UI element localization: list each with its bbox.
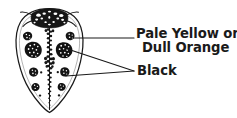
spot-lower-left xyxy=(29,68,38,77)
beetle-diagram-svg xyxy=(0,0,237,118)
label-pale-yellow-or: Pale Yellow or xyxy=(136,27,237,41)
spot-upper-right xyxy=(66,32,75,41)
label-dull-orange: Dull Orange xyxy=(142,41,229,55)
spot-apex-right xyxy=(58,94,61,96)
spot-tiny-left xyxy=(40,71,42,73)
spot-lower-right xyxy=(60,67,69,76)
spot-tiny-right xyxy=(57,71,59,73)
figure-page: Pale Yellow or Dull Orange Black xyxy=(0,0,237,118)
spot-apex-left xyxy=(39,95,42,97)
pronotum xyxy=(31,9,68,28)
label-black: Black xyxy=(137,64,177,78)
beetle-body xyxy=(16,9,83,113)
